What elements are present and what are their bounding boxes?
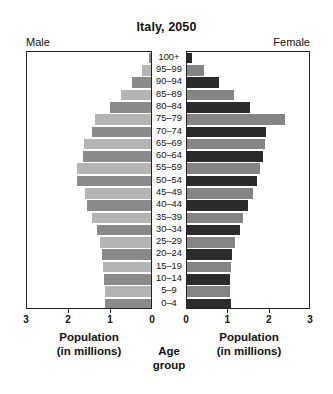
female-bar-row (187, 114, 309, 125)
age-group-label: 70–74 (152, 126, 186, 137)
age-group-label: 50–54 (152, 175, 186, 186)
age-group-label: 25–29 (152, 236, 186, 247)
female-bar (187, 114, 285, 125)
male-side-label: Male (26, 36, 50, 48)
male-bar (77, 176, 151, 187)
male-bar-row (27, 53, 151, 64)
left-axis-caption-line2: (in millions) (20, 344, 158, 358)
male-bar-row (27, 127, 151, 138)
x-tick-label-female: 2 (262, 314, 276, 325)
female-bar (187, 213, 243, 224)
female-bar-row (187, 200, 309, 211)
male-bar (103, 262, 151, 273)
age-group-label: 0–4 (152, 298, 186, 309)
female-bar (187, 163, 260, 174)
male-bar (105, 286, 151, 297)
right-axis-caption: Population (in millions) (180, 330, 318, 358)
right-axis-caption-line1: Population (180, 330, 318, 344)
female-bar-row (187, 188, 309, 199)
right-axis-caption-line2: (in millions) (180, 344, 318, 358)
population-pyramid-chart: Italy, 2050 Male Female 100+95–9990–9485… (0, 0, 333, 394)
female-bar-row (187, 127, 309, 138)
female-bar-row (187, 139, 309, 150)
female-bar (187, 299, 231, 309)
female-bar-row (187, 65, 309, 76)
male-bar-row (27, 286, 151, 297)
male-bar-row (27, 102, 151, 113)
age-group-label: 90–94 (152, 76, 186, 87)
age-group-label: 75–79 (152, 113, 186, 124)
age-group-label: 40–44 (152, 199, 186, 210)
male-bar (85, 188, 151, 199)
age-group-label: 35–39 (152, 212, 186, 223)
female-bar-row (187, 299, 309, 309)
male-bar-row (27, 77, 151, 88)
age-group-label: 30–34 (152, 224, 186, 235)
x-tick-mark (68, 309, 69, 313)
male-bar-row (27, 114, 151, 125)
x-tick-mark (110, 309, 111, 313)
male-bar-row (27, 188, 151, 199)
male-bar-row (27, 151, 151, 162)
center-axis-caption-line1: Age (144, 344, 194, 358)
female-bar (187, 249, 232, 260)
male-bar (95, 114, 151, 125)
male-bar (97, 225, 151, 236)
age-group-axis: 100+95–9990–9485–8980–8475–7970–7465–696… (152, 51, 186, 309)
male-bar (87, 200, 151, 211)
male-bar-row (27, 163, 151, 174)
age-group-label: 85–89 (152, 89, 186, 100)
x-tick-label-female: 1 (220, 314, 234, 325)
female-bar-row (187, 286, 309, 297)
x-tick-label-male: 0 (145, 314, 159, 325)
male-bar-row (27, 139, 151, 150)
male-bar (132, 77, 151, 88)
x-tick-label-male: 3 (19, 314, 33, 325)
female-bar-row (187, 90, 309, 101)
female-bar-row (187, 262, 309, 273)
age-group-label: 60–64 (152, 150, 186, 161)
female-bar (187, 139, 265, 150)
age-group-label: 45–49 (152, 187, 186, 198)
female-bar (187, 225, 240, 236)
female-plot-panel (186, 51, 310, 309)
age-group-label: 20–24 (152, 248, 186, 259)
female-bar-row (187, 249, 309, 260)
age-group-label: 100+ (152, 52, 186, 63)
age-group-label: 15–19 (152, 261, 186, 272)
left-axis-caption-line1: Population (20, 330, 158, 344)
male-bar-row (27, 274, 151, 285)
age-group-label: 5–9 (152, 285, 186, 296)
male-bar-row (27, 176, 151, 187)
male-bar-row (27, 299, 151, 309)
female-bar-row (187, 151, 309, 162)
x-tick-mark (269, 309, 270, 313)
male-bar-row (27, 65, 151, 76)
male-bar (83, 151, 151, 162)
male-bar (100, 237, 151, 248)
male-bar-row (27, 213, 151, 224)
male-bar-row (27, 237, 151, 248)
age-group-label: 95–99 (152, 64, 186, 75)
female-bar (187, 53, 192, 64)
center-axis-caption-line2: group (144, 358, 194, 372)
age-group-label: 10–14 (152, 273, 186, 284)
chart-title: Italy, 2050 (0, 20, 333, 34)
male-bar (77, 163, 151, 174)
female-bar (187, 286, 230, 297)
female-bar-row (187, 213, 309, 224)
male-bar (92, 213, 151, 224)
male-plot-panel (26, 51, 152, 309)
female-bar (187, 151, 263, 162)
female-bar-row (187, 274, 309, 285)
x-tick-label-female: 3 (303, 314, 317, 325)
x-tick-label-male: 1 (103, 314, 117, 325)
male-bar-row (27, 262, 151, 273)
female-bar (187, 65, 204, 76)
center-axis-caption: Age group (144, 344, 194, 372)
x-tick-mark (227, 309, 228, 313)
male-bar (121, 90, 151, 101)
female-bar (187, 200, 248, 211)
male-bar (149, 53, 151, 64)
male-bar (142, 65, 151, 76)
